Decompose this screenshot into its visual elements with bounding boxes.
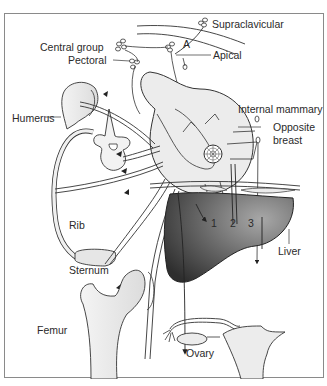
label-sternum: Sternum [69, 265, 109, 276]
label-route-3: 3 [248, 218, 254, 229]
label-ovary: Ovary [186, 348, 214, 359]
label-femur: Femur [37, 325, 67, 336]
label-opposite-breast-1: Opposite [273, 122, 315, 133]
fimbriae [163, 330, 175, 342]
ovary [177, 333, 207, 345]
label-central-group: Central group [40, 42, 104, 53]
label-opposite-breast-2: breast [273, 135, 302, 146]
diagram-frame: Supraclavicular Central group A Apical P… [4, 13, 324, 378]
label-humerus: Humerus [12, 113, 55, 124]
label-rib: Rib [69, 220, 85, 231]
label-internal-mammary: Internal mammary [238, 104, 323, 115]
label-supraclavicular: Supraclavicular [212, 19, 284, 30]
fallopian-tube [170, 318, 240, 329]
humerus [62, 82, 98, 129]
label-route-1: 1 [211, 218, 217, 229]
label-a-marker: A [183, 39, 190, 50]
label-apical: Apical [213, 50, 242, 61]
uterus [223, 326, 285, 379]
femur [81, 270, 145, 379]
label-liver: Liver [278, 246, 301, 257]
label-pectoral: Pectoral [68, 55, 107, 66]
breast [141, 72, 253, 195]
label-route-2: 2 [230, 218, 236, 229]
